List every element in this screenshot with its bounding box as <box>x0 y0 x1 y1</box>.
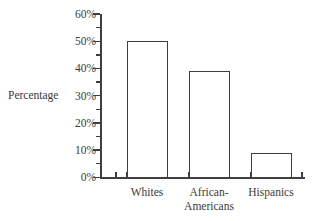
y-axis-title: Percentage <box>8 89 58 102</box>
y-axis-line <box>100 14 102 179</box>
y-axis-tick-major <box>93 149 100 150</box>
x-axis-tick <box>115 172 116 179</box>
y-axis-tick-major <box>93 68 100 69</box>
y-axis-tick-minor <box>96 163 100 164</box>
bar-chart: Percentage 0%10%20%30%40%50%60% WhitesAf… <box>0 0 320 221</box>
y-axis-tick-labels: 0%10%20%30%40%50%60% <box>52 0 96 221</box>
y-axis-tick-label: 60% <box>52 8 96 20</box>
y-axis-tick-major <box>93 41 100 42</box>
y-axis-tick-major <box>93 122 100 123</box>
y-axis-tick-label: 50% <box>52 35 96 47</box>
y-axis-tick-minor <box>96 109 100 110</box>
x-axis-tick <box>301 172 302 179</box>
bar <box>127 41 168 177</box>
y-axis-tick-label: 10% <box>52 144 96 156</box>
y-axis-tick-label: 20% <box>52 117 96 129</box>
y-axis-tick-major <box>93 177 100 178</box>
y-axis-tick-minor <box>96 81 100 82</box>
y-axis-tick-minor <box>96 136 100 137</box>
plot-area <box>100 14 312 179</box>
bar <box>189 71 230 177</box>
y-axis-tick-label: 0% <box>52 171 96 183</box>
bar <box>251 153 292 178</box>
y-axis-tick-major <box>93 13 100 14</box>
x-axis-line <box>100 177 305 179</box>
y-axis-tick-major <box>93 95 100 96</box>
y-axis-tick-label: 40% <box>52 62 96 74</box>
y-axis-tick-label: 30% <box>52 90 96 102</box>
y-axis-tick-minor <box>96 54 100 55</box>
x-axis-category-label: Hispanics <box>231 186 311 200</box>
y-axis-tick-minor <box>96 27 100 28</box>
